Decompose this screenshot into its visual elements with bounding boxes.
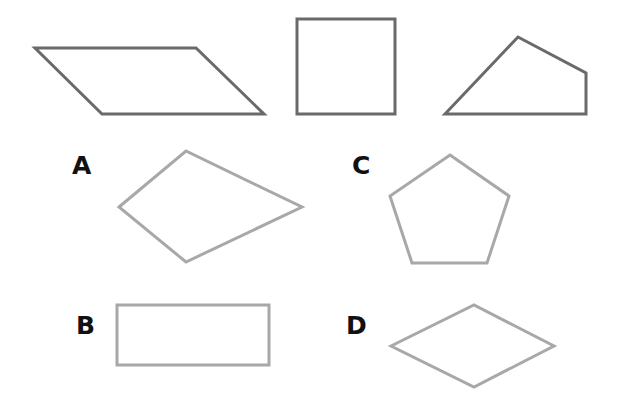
- shapes-drawing: [0, 0, 618, 406]
- option-d-label: D: [346, 313, 367, 338]
- option-b-rectangle[interactable]: [117, 305, 269, 365]
- option-a-label: A: [72, 153, 91, 178]
- reference-parallelogram: [35, 48, 264, 114]
- reference-square: [297, 19, 395, 114]
- shapes-worksheet: A B C D: [0, 0, 618, 406]
- option-d-rhombus[interactable]: [391, 305, 554, 387]
- reference-irregular-quadrilateral: [445, 37, 586, 114]
- option-a-kite[interactable]: [119, 151, 302, 262]
- option-c-label: C: [352, 153, 370, 178]
- option-c-pentagon[interactable]: [390, 155, 509, 263]
- option-b-label: B: [76, 313, 95, 338]
